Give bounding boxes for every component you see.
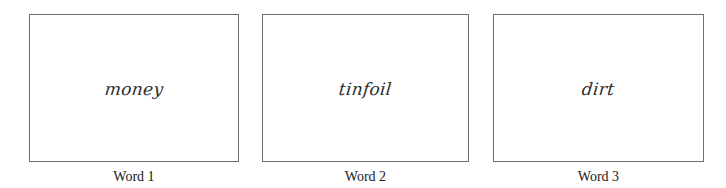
word-caption-2: Word 2 [262,169,469,185]
word-caption-1: Word 1 [29,169,239,185]
word-caption-3: Word 3 [493,169,704,185]
word-card-2: tinfoil [262,14,469,162]
handwritten-word: dirt [581,79,616,99]
handwritten-word: money [104,79,165,99]
handwritten-word: tinfoil [338,79,393,99]
word-card-3: dirt [493,14,704,162]
word-card-1: money [29,14,239,162]
